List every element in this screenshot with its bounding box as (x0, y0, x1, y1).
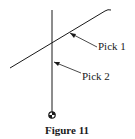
figure-caption: Figure 11 (45, 124, 89, 136)
pick2-label: Pick 2 (82, 70, 110, 82)
origin-symbol-icon (49, 112, 55, 118)
diagonal-line (10, 10, 111, 68)
arrowhead-icon (70, 33, 76, 38)
pick1-leader (70, 33, 97, 47)
pick1-label: Pick 1 (98, 40, 126, 52)
pick2-leader (54, 62, 81, 73)
figure-diagram: Pick 1 Pick 2 Figure 11 (0, 0, 135, 139)
